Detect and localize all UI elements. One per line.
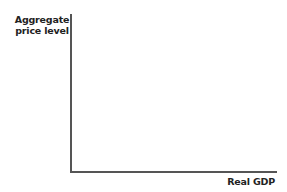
y-axis-label-line-2: price level	[14, 25, 70, 36]
y-axis-label-line-1: Aggregate	[14, 14, 70, 25]
y-axis	[70, 14, 72, 172]
y-axis-label: Aggregate price level	[14, 14, 70, 36]
x-axis-label: Real GDP	[227, 176, 275, 187]
x-axis	[70, 171, 277, 173]
